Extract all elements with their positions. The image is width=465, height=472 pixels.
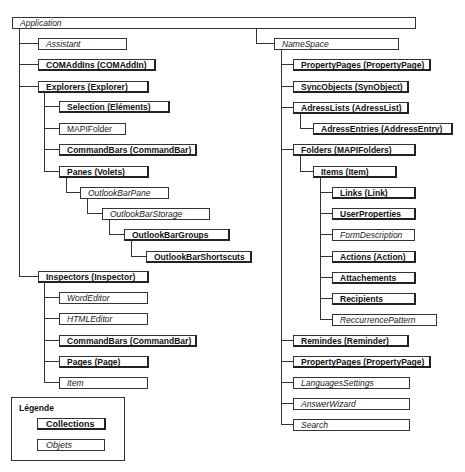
connector: [19, 276, 38, 277]
node-comaddins: COMAddIns (COMAddIn): [38, 59, 156, 71]
connector: [44, 128, 59, 129]
node-languagessettings: LanguagesSettings: [293, 377, 410, 389]
node-outlookbarpane: OutlookBarPane: [80, 187, 169, 199]
node-panes: Panes (Volets): [59, 166, 149, 178]
node-actions: Actions (Action): [332, 251, 416, 263]
connector: [320, 234, 332, 235]
connector: [44, 171, 59, 172]
connector: [281, 382, 293, 383]
legend-objects: Objets: [37, 439, 105, 451]
connector: [320, 298, 332, 299]
connector: [300, 156, 301, 171]
connector: [66, 192, 80, 193]
connector: [131, 241, 132, 256]
connector: [109, 220, 110, 235]
node-application: Application: [12, 17, 416, 29]
node-htmleditor: HTMLEditor: [59, 313, 148, 325]
connector: [87, 199, 88, 214]
node-items: Items (Item): [313, 166, 397, 178]
connector: [320, 319, 332, 320]
connector: [44, 93, 45, 171]
node-remindes: Remindes (Reminder): [293, 335, 409, 347]
node-assistant: Assistant: [38, 38, 127, 50]
connector: [66, 178, 67, 193]
connector: [256, 29, 257, 44]
node-propertypages-2: PropertyPages (PropertyPage): [293, 356, 431, 368]
node-links: Links (Link): [332, 187, 416, 199]
connector: [131, 256, 146, 257]
connector: [320, 277, 332, 278]
node-formdescription: FormDescription: [332, 229, 415, 241]
node-attachements: Attachements: [332, 272, 416, 284]
node-propertypages-1: PropertyPages (PropertyPage): [293, 59, 431, 71]
connector: [44, 361, 59, 362]
connector: [44, 149, 59, 150]
connector: [109, 234, 124, 235]
connector: [281, 64, 293, 65]
node-explorers: Explorers (Explorer): [38, 81, 149, 93]
node-search: Search: [293, 419, 410, 431]
node-pages: Pages (Page): [59, 356, 149, 368]
connector: [19, 43, 38, 44]
node-mapifolder: MAPIFolder: [59, 123, 126, 135]
connector: [19, 86, 38, 87]
connector: [281, 403, 293, 404]
connector: [19, 64, 38, 65]
connector: [44, 106, 59, 107]
node-item: Item: [59, 377, 148, 389]
node-wordeditor: WordEditor: [59, 292, 148, 304]
node-outlookbarstorage: OutlookBarStorage: [102, 208, 210, 220]
node-commandbars-explorer: CommandBars (CommandBar): [59, 144, 197, 156]
connector: [256, 43, 274, 44]
connector: [44, 318, 59, 319]
node-commandbars-inspector: CommandBars (CommandBar): [59, 335, 197, 347]
node-outlookbarshortcuts: OutlookBarShortscuts: [146, 251, 252, 263]
connector: [281, 424, 293, 425]
node-selection: Selection (Eléments): [59, 101, 170, 113]
connector: [300, 171, 313, 172]
connector: [300, 128, 313, 129]
connector: [87, 213, 102, 214]
connector: [44, 297, 59, 298]
node-recipients: Recipients: [332, 293, 416, 305]
node-userproperties: UserProperties: [332, 208, 416, 220]
connector: [281, 107, 293, 108]
connector: [281, 340, 293, 341]
node-namespace: NameSpace: [274, 38, 399, 50]
connector: [281, 361, 293, 362]
node-outlookbargroups: OutlookBarGroups: [124, 229, 230, 241]
node-answerwizard: AnswerWizard: [293, 398, 410, 410]
node-folders: Folders (MAPIFolders): [293, 144, 416, 156]
connector: [320, 213, 332, 214]
legend-collections: Collections: [37, 418, 106, 430]
node-adresslists: AdressLists (AdressList): [293, 102, 409, 114]
connector: [320, 256, 332, 257]
connector: [44, 283, 45, 383]
node-syncobjects: SyncObjects (SynObject): [293, 81, 409, 93]
connector: [300, 114, 301, 129]
connector: [281, 86, 293, 87]
connector: [44, 340, 59, 341]
node-adressentries: AdressEntries (AddressEntry): [313, 123, 453, 135]
legend-title: Légende: [19, 403, 54, 413]
connector: [19, 29, 20, 277]
connector: [44, 382, 59, 383]
node-inspectors: Inspectors (Inspector): [38, 271, 149, 283]
connector: [281, 149, 293, 150]
node-reccurrencepattern: ReccurrencePattern: [332, 314, 437, 326]
connector: [320, 192, 332, 193]
